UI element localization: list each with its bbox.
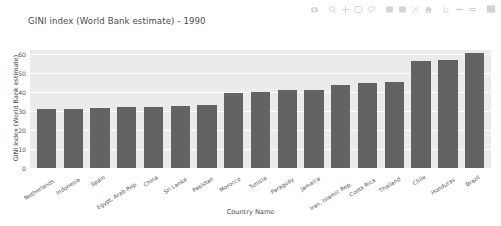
bar-column[interactable]	[167, 50, 194, 168]
bar-column[interactable]	[140, 50, 167, 168]
x-axis-tick-label: Thailand	[386, 171, 410, 189]
y-axis-tick-label: 50	[0, 69, 26, 76]
zoom-out-icon[interactable]	[396, 3, 409, 16]
autoscale-icon[interactable]	[409, 3, 422, 16]
bar[interactable]	[197, 105, 216, 168]
y-axis-tick-label: 30	[0, 107, 26, 114]
lasso-select-icon[interactable]	[365, 3, 378, 16]
bar[interactable]	[251, 92, 270, 169]
bar-column[interactable]	[408, 50, 435, 168]
plotly-modebar[interactable]	[303, 2, 497, 16]
bar-column[interactable]	[301, 50, 328, 168]
pan-icon[interactable]	[339, 3, 352, 16]
bar-column[interactable]	[274, 50, 301, 168]
hover-closest-data-icon[interactable]	[466, 3, 479, 16]
bar-column[interactable]	[194, 50, 221, 168]
bar[interactable]	[64, 109, 83, 168]
bar-column[interactable]	[113, 50, 140, 168]
bar[interactable]	[278, 90, 297, 168]
zoom-in-icon[interactable]	[383, 3, 396, 16]
zoom-icon[interactable]	[326, 3, 339, 16]
bar-column[interactable]	[247, 50, 274, 168]
plotly-figure: GINI index (World Bank estimate) - 1990 …	[0, 0, 501, 226]
x-axis-tick-label: Pakistan	[199, 171, 222, 189]
bar[interactable]	[465, 53, 484, 168]
y-axis-tick-label: 60	[0, 50, 26, 57]
toggle-spike-lines-icon[interactable]	[440, 3, 453, 16]
bar[interactable]	[117, 107, 136, 168]
bar-column[interactable]	[434, 50, 461, 168]
x-axis-tick-label: China	[148, 171, 165, 185]
bar[interactable]	[144, 107, 163, 168]
bar-series[interactable]	[30, 50, 491, 168]
modebar-group-drag[interactable]	[326, 3, 378, 16]
download-plot-camera-icon[interactable]	[308, 3, 321, 16]
y-axis-tick-label: 20	[0, 127, 26, 134]
bar-column[interactable]	[381, 50, 408, 168]
bar[interactable]	[438, 60, 457, 168]
bar[interactable]	[304, 90, 323, 168]
plotly-logo-icon[interactable]	[484, 3, 497, 16]
bar-column[interactable]	[354, 50, 381, 168]
bar[interactable]	[331, 85, 350, 168]
y-axis-tick-label: 0	[0, 165, 26, 172]
x-axis-tick-label: Tunisia	[254, 171, 273, 186]
bar[interactable]	[224, 93, 243, 168]
x-axis-tick-label: Morocco	[226, 171, 249, 188]
y-axis-tick-label: 10	[0, 146, 26, 153]
modebar-group-zoom[interactable]	[383, 3, 435, 16]
reset-axes-home-icon[interactable]	[422, 3, 435, 16]
x-axis-title: Country Name	[0, 208, 501, 216]
bar[interactable]	[90, 108, 109, 168]
bar[interactable]	[385, 82, 404, 168]
bar-column[interactable]	[60, 50, 87, 168]
bar-column[interactable]	[87, 50, 114, 168]
x-axis-tick-label: Brazil	[469, 171, 485, 184]
x-axis-tick-label: Spain	[94, 171, 110, 184]
bar[interactable]	[411, 61, 430, 168]
bar[interactable]	[171, 106, 190, 168]
modebar-group-logo[interactable]	[484, 3, 497, 16]
bar-column[interactable]	[461, 50, 488, 168]
bar-column[interactable]	[33, 50, 60, 168]
x-axis-tick-label: Chile	[416, 171, 431, 184]
hover-compare-data-icon[interactable]	[453, 3, 466, 16]
x-axis-tick-label: Jamaica	[306, 171, 328, 188]
bar[interactable]	[37, 109, 56, 168]
y-axis-tick-label: 40	[0, 88, 26, 95]
modebar-group-download[interactable]	[308, 3, 321, 16]
bar-column[interactable]	[220, 50, 247, 168]
chart-title: GINI index (World Bank estimate) - 1990	[28, 16, 206, 26]
box-select-icon[interactable]	[352, 3, 365, 16]
bar-column[interactable]	[327, 50, 354, 168]
bar[interactable]	[358, 83, 377, 168]
modebar-group-hover[interactable]	[440, 3, 479, 16]
